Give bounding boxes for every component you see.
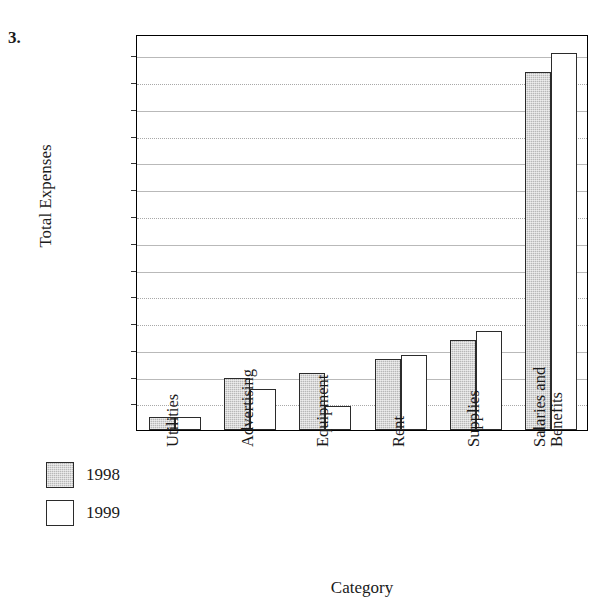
- x-category-line: Equipment: [315, 375, 332, 447]
- x-category-label: Advertising: [240, 369, 257, 447]
- legend: 19981999: [46, 462, 156, 538]
- x-category-line: Utilities: [165, 394, 182, 447]
- legend-item-1998: 1998: [46, 462, 156, 488]
- x-axis-title: Category: [136, 578, 588, 598]
- x-category-label: Supplies: [466, 390, 483, 447]
- x-category-line: Salaries and: [531, 367, 548, 447]
- x-category-label: Equipment: [315, 375, 332, 447]
- x-category-line: Advertising: [240, 369, 257, 447]
- x-category-label: Utilities: [165, 394, 182, 447]
- legend-swatch-1999: [46, 500, 74, 526]
- bar-chart-figure: 3. Total Expenses 1000200030004000500060…: [0, 0, 609, 611]
- x-category-line: Benefits: [549, 367, 566, 447]
- legend-item-1999: 1999: [46, 500, 156, 526]
- x-category-label: Rent: [391, 416, 408, 447]
- x-category-label: Salaries andBenefits: [531, 367, 566, 447]
- legend-swatch-1998: [46, 462, 74, 488]
- x-category-line: Rent: [391, 416, 408, 447]
- legend-label-1999: 1999: [86, 503, 120, 523]
- legend-label-1998: 1998: [86, 465, 120, 485]
- x-category-line: Supplies: [466, 390, 483, 447]
